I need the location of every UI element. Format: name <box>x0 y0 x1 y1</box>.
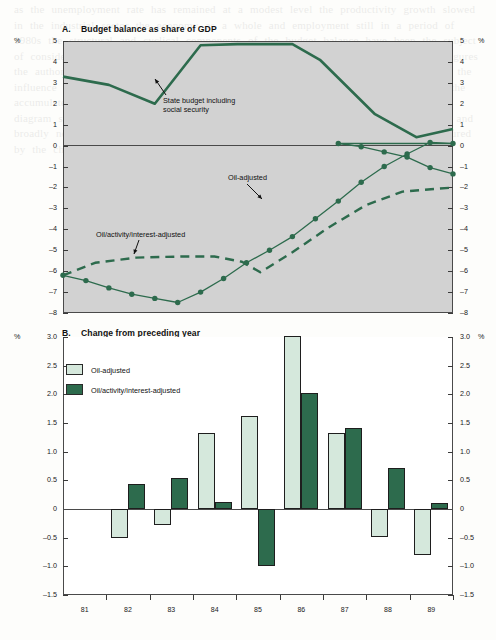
bar-83-oil-activity-interest <box>171 478 188 509</box>
marker-oil-adjusted <box>382 149 387 154</box>
panel-b-x-tick <box>453 595 454 600</box>
bar-82-oil-adjusted <box>111 509 128 538</box>
panel-b-x-label: 89 <box>417 606 445 613</box>
bar-89-oil-adjusted <box>414 509 431 555</box>
panel-b-x-label: 86 <box>287 606 315 613</box>
panel-b-x-tick <box>236 595 237 600</box>
marker-oil-adjusted <box>152 296 157 301</box>
panel-b-tick-left <box>63 538 68 539</box>
panel-b-x-tick <box>150 595 151 600</box>
panel-b-x-label: 87 <box>331 606 359 613</box>
panel-b-y-label-left: 1.5 <box>29 418 57 427</box>
annotation-oil-activity-interest: Oil/activity/interest-adjusted <box>96 231 185 240</box>
bar-86-oil-activity-interest <box>301 393 318 509</box>
panel-b-y-label-right: 1.0 <box>460 447 470 456</box>
panel-b-y-label-left: 0.5 <box>29 475 57 484</box>
annotation-state-budget: State budget including social security <box>163 97 235 114</box>
panel-b-tick-left <box>63 337 68 338</box>
panel-b-y-label-left: 1.0 <box>29 447 57 456</box>
panel-b-tick-right <box>448 337 453 338</box>
panel-b-x-label: 84 <box>201 606 229 613</box>
panel-b-x-label: 85 <box>244 606 272 613</box>
panel-b-y-label-left: –0.5 <box>29 533 57 542</box>
panel-b-x-label: 82 <box>114 606 142 613</box>
marker-oil-adjusted <box>175 300 180 305</box>
panel-b-x-tick <box>410 595 411 600</box>
panel-b-y-label-right: 1.5 <box>460 418 470 427</box>
marker-oil-adjusted <box>450 171 455 176</box>
panel-b-x-tick <box>280 595 281 600</box>
figure-page: as the unemployment rate has remained at… <box>0 0 496 640</box>
panel-a-series <box>0 0 496 320</box>
bar-84-oil-adjusted <box>198 433 215 509</box>
panel-b-tick-right <box>448 538 453 539</box>
marker-oil-adjusted <box>427 165 432 170</box>
panel-a: A.Budget balance as share of GDP % % 554… <box>0 0 496 320</box>
bar-88-oil-adjusted <box>371 509 388 537</box>
panel-b-y-label-right: 3.0 <box>460 332 470 341</box>
legend-label-oil-adjusted: Oil-adjusted <box>91 366 130 375</box>
panel-b-tick-left <box>63 480 68 481</box>
panel-b-tick-left <box>63 566 68 567</box>
marker-oil-adjusted <box>313 216 318 221</box>
bar-87-oil-adjusted <box>328 433 345 509</box>
marker-oil-adjusted <box>267 248 272 253</box>
panel-b-y-label-right: 2.0 <box>460 389 470 398</box>
panel-b-tick-right <box>448 366 453 367</box>
bar-87-oil-activity-interest <box>345 428 362 509</box>
panel-b-x-label: 83 <box>157 606 185 613</box>
marker-oil-adjusted <box>404 154 409 159</box>
marker-oil-adjusted <box>129 292 134 297</box>
marker-oil-adjusted <box>359 180 364 185</box>
panel-b-tick-right <box>448 423 453 424</box>
panel-b-y-label-right: –0.5 <box>460 533 474 542</box>
panel-b-x-tick <box>366 595 367 600</box>
marker-oil-adjusted <box>336 198 341 203</box>
marker-oil-adjusted <box>221 276 226 281</box>
panel-b-tick-left <box>63 423 68 424</box>
bar-89-oil-activity-interest <box>431 503 448 509</box>
panel-b-tick-left <box>63 595 68 596</box>
panel-b-y-label-right: –1.5 <box>460 590 474 599</box>
panel-b-tick-right <box>448 566 453 567</box>
bar-83-oil-adjusted <box>154 509 171 525</box>
bar-88-oil-activity-interest <box>388 468 405 509</box>
line-state-budget <box>63 44 453 137</box>
legend-swatch-oil-adjusted <box>66 364 83 375</box>
leader-oil-activity-interest-head <box>134 249 138 254</box>
bar-86-oil-adjusted <box>284 336 301 509</box>
panel-b-unit-right: % <box>478 332 484 341</box>
panel-b-tick-right <box>448 480 453 481</box>
panel-b-y-label-right: 0 <box>460 504 464 513</box>
marker-oil-adjusted <box>427 140 432 145</box>
panel-b-y-label-right: 0.5 <box>460 475 470 484</box>
marker-oil-adjusted <box>382 164 387 169</box>
marker-oil-adjusted <box>450 141 455 146</box>
panel-b-tick-right <box>448 394 453 395</box>
panel-b-y-label-left: 0 <box>29 504 57 513</box>
bar-85-oil-activity-interest <box>258 509 275 566</box>
marker-oil-adjusted <box>336 141 341 146</box>
panel-b-y-label-left: 3.0 <box>29 332 57 341</box>
panel-b-y-label-left: –1.0 <box>29 561 57 570</box>
marker-oil-adjusted <box>359 144 364 149</box>
annotation-oil-adjusted: Oil-adjusted <box>228 174 267 183</box>
marker-oil-adjusted <box>290 234 295 239</box>
marker-oil-adjusted <box>198 289 203 294</box>
bar-85-oil-adjusted <box>241 416 258 509</box>
panel-b-x-label: 88 <box>374 606 402 613</box>
line-oil-adjusted <box>63 143 453 303</box>
panel-b-x-tick <box>323 595 324 600</box>
leader-state-budget-head <box>155 79 159 84</box>
panel-b-x-tick <box>106 595 107 600</box>
panel-b-x-tick <box>193 595 194 600</box>
marker-oil-adjusted <box>106 285 111 290</box>
bar-82-oil-activity-interest <box>128 484 145 509</box>
legend-swatch-oil-activity-interest <box>66 384 83 395</box>
panel-b-y-label-left: –1.5 <box>29 590 57 599</box>
panel-b-y-label-right: –1.0 <box>460 561 474 570</box>
panel-b-tick-right <box>448 452 453 453</box>
panel-b-y-label-left: 2.5 <box>29 361 57 370</box>
panel-b-y-label-right: 2.5 <box>460 361 470 370</box>
panel-b-unit-left: % <box>14 332 20 341</box>
